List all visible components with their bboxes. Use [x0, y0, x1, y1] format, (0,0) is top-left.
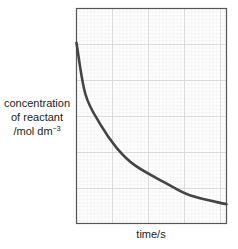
reaction-rate-chart: concentration of reactant /mol dm−3 time…	[0, 0, 238, 249]
y-axis-unit: /mol dm	[13, 125, 52, 137]
y-axis-label-line-3: /mol dm−3	[0, 124, 74, 138]
minor-gridlines	[77, 9, 227, 224]
y-axis-label-line-1: concentration	[0, 96, 74, 110]
y-axis-label: concentration of reactant /mol dm−3	[0, 96, 74, 138]
y-axis-unit-exponent: −3	[53, 125, 61, 132]
y-axis-label-line-2: of reactant	[0, 110, 74, 124]
x-axis-label: time/s	[76, 227, 226, 241]
